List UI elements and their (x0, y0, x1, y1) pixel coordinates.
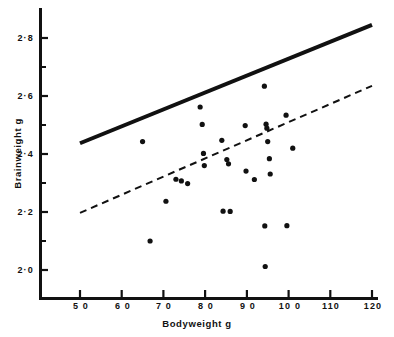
y-tick-label-2-2: 2·2 (8, 207, 34, 217)
y-tick-label-2-8: 2·8 (8, 33, 34, 43)
y-tick-label-2-0: 2·0 (8, 265, 34, 275)
data-point (284, 223, 289, 228)
x-tick-label-60: 6 0 (115, 301, 131, 311)
data-point (147, 238, 152, 243)
data-point (263, 264, 268, 269)
scatter-plot-canvas (0, 0, 394, 337)
y-tick-label-2-6: 2·6 (8, 91, 34, 101)
data-point (219, 138, 224, 143)
data-point (140, 139, 145, 144)
data-point (290, 146, 295, 151)
data-point (226, 161, 231, 166)
x-tick-label-50: 5 0 (73, 301, 89, 311)
chart-figure: 2·0 2·2 2·4 2·6 2·8 5 0 6 0 7 0 8 0 9 0 … (0, 0, 394, 337)
data-point (267, 156, 272, 161)
data-point (198, 104, 203, 109)
data-point (264, 126, 269, 131)
data-point (173, 177, 178, 182)
data-point (262, 84, 267, 89)
data-point (243, 123, 248, 128)
x-tick-label-120: 120 (364, 301, 383, 311)
data-point (220, 209, 225, 214)
data-point (268, 171, 273, 176)
x-tick-label-70: 7 0 (156, 301, 172, 311)
data-point (283, 113, 288, 118)
data-point (179, 178, 184, 183)
data-point (262, 223, 267, 228)
data-point (243, 169, 248, 174)
x-tick-label-90: 9 0 (240, 301, 256, 311)
data-point (200, 122, 205, 127)
data-point (163, 199, 168, 204)
x-axis-title: Bodyweight g (0, 318, 394, 329)
y-axis-title: Brainweight g (12, 104, 23, 204)
x-tick-label-80: 8 0 (198, 301, 214, 311)
data-point (185, 181, 190, 186)
data-point (202, 163, 207, 168)
data-point (265, 139, 270, 144)
data-point (252, 177, 257, 182)
x-tick-label-110: 110 (322, 301, 340, 311)
plot-background (0, 0, 394, 337)
x-tick-label-100: 10 0 (279, 301, 301, 311)
data-point (201, 151, 206, 156)
data-point (228, 209, 233, 214)
